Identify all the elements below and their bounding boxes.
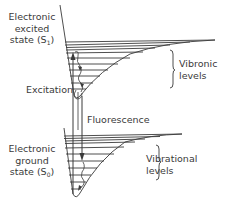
excitation-label: Excitation: [26, 84, 73, 96]
excited-state-suffix: ): [50, 34, 54, 45]
ground-state-line3: state (S0): [2, 166, 62, 181]
ground-state-line2: ground: [2, 155, 62, 167]
excited-state-text: state (S: [10, 34, 47, 45]
vibronic-level: [66, 48, 155, 50]
vibrational-line1: Vibrational: [146, 153, 197, 165]
excited-state-label: Electronic excited state (S1): [2, 11, 62, 49]
vibronic-levels-label: Vibronic levels: [179, 58, 217, 81]
relaxation-arrowhead: [80, 83, 84, 88]
relaxation-wavy-arrow-ground: [79, 162, 84, 189]
ground-state-text: state (S: [10, 166, 47, 177]
excited-state-line2: excited: [2, 23, 62, 35]
fluorescence-label: Fluorescence: [87, 114, 150, 126]
transition-arrows: [71, 52, 85, 194]
excited-state-line3: state (S1): [2, 34, 62, 49]
vibrational-level: [65, 147, 124, 148]
ground-state-suffix: ): [50, 166, 54, 177]
fluorescence-arrowhead: [80, 153, 85, 161]
vibrational-levels-label: Vibrational levels: [146, 153, 197, 176]
excited-state-line1: Electronic: [2, 11, 62, 23]
vibronic-line2: levels: [179, 70, 217, 82]
vibrational-line2: levels: [146, 165, 197, 177]
ground-state-line1: Electronic: [2, 143, 62, 155]
vibronic-line1: Vibronic: [179, 58, 217, 70]
nonradiative-relaxation: [74, 52, 84, 192]
ground-state-label: Electronic ground state (S0): [2, 143, 62, 181]
vibronic-brace: [170, 50, 175, 88]
